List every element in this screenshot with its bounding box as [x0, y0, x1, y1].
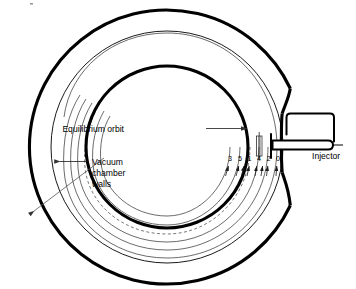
annotation-leaders: [34, 129, 247, 212]
outer-chamber-wall-group: [29, 10, 290, 284]
injector-label: Injector: [312, 151, 340, 161]
orbit-tick-2: [267, 166, 268, 176]
orbit-tick-0: [276, 166, 277, 176]
orbit-turn-ticks: [226, 166, 277, 176]
injector-upper-duct: [287, 114, 335, 142]
orbit-number-4: 4: [257, 154, 261, 163]
scan-artifact-speck: [30, 3, 33, 5]
orbit-tick-4b: [261, 166, 263, 176]
orbit-tick-4: [255, 166, 257, 176]
vacuum-chamber-diagram: Equilibrium orbit Vacuum chamber walls I…: [0, 0, 356, 289]
equilibrium-orbit-label: Equilibrium orbit: [62, 124, 124, 134]
orbit-number-5: 5: [238, 154, 242, 163]
outer-chamber-wall: [29, 10, 290, 284]
vacuum-chamber-label-line-2: chamber: [92, 168, 126, 178]
vacuum-chamber-label-line-3: walls: [91, 179, 111, 189]
orbit-number-0: 0: [276, 154, 280, 163]
orbit-number-1: 1: [248, 154, 252, 163]
outer-chamber-wall-notch-bottom: [282, 173, 290, 206]
diagram-root: Equilibrium orbit Vacuum chamber walls I…: [0, 0, 356, 289]
inner-chamber-wall: [86, 66, 248, 228]
orbit-tick-1: [247, 166, 249, 176]
orbit-number-2: 2: [267, 154, 271, 163]
outer-chamber-wall-notch-top: [282, 89, 290, 114]
vacuum-chamber-label-line-1: Vacuum: [92, 157, 123, 167]
orbit-number-3: 3: [228, 154, 232, 163]
injector-barrel: [273, 141, 334, 150]
